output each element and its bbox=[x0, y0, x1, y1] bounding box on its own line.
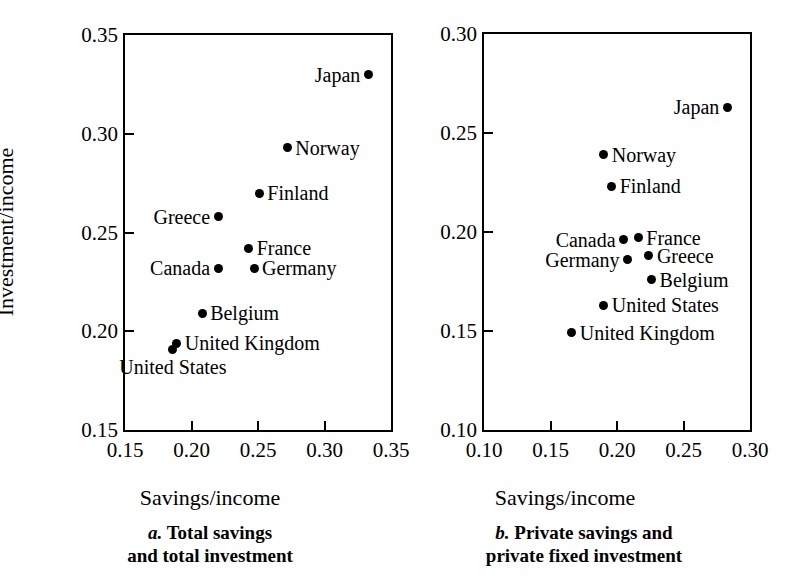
data-point bbox=[619, 235, 628, 244]
y-tick-mark bbox=[484, 132, 493, 134]
caption-b-letter: b. bbox=[495, 522, 509, 543]
x-tick-label: 0.30 bbox=[306, 440, 343, 461]
x-axis-title-b: Savings/income bbox=[376, 487, 754, 509]
data-point-label: Germany bbox=[262, 258, 336, 278]
data-point-label: Belgium bbox=[660, 270, 729, 290]
x-tick-label: 0.20 bbox=[173, 440, 210, 461]
data-point-label: Greece bbox=[657, 246, 714, 266]
data-point bbox=[623, 255, 632, 264]
data-point bbox=[250, 264, 259, 273]
data-point-label: Finland bbox=[267, 183, 328, 203]
x-axis-title-a: Savings/income bbox=[0, 487, 420, 509]
data-point-label: Belgium bbox=[210, 303, 279, 323]
y-tick-label: 0.30 bbox=[440, 24, 477, 45]
x-tick-mark bbox=[616, 421, 618, 430]
data-point-label: United Kingdom bbox=[185, 333, 320, 353]
data-point-label: Japan bbox=[315, 65, 361, 85]
y-tick-label: 0.20 bbox=[81, 321, 118, 342]
data-point-label: Greece bbox=[153, 207, 210, 227]
data-point bbox=[607, 182, 616, 191]
data-point-label: Germany bbox=[545, 250, 619, 270]
data-point bbox=[644, 251, 653, 260]
y-tick-label: 0.25 bbox=[440, 123, 477, 144]
data-point-label: Japan bbox=[674, 97, 720, 117]
caption-a-letter: a. bbox=[148, 522, 162, 543]
x-tick-mark bbox=[257, 421, 259, 430]
y-tick-label: 0.35 bbox=[81, 25, 118, 46]
x-tick-mark bbox=[191, 421, 193, 430]
data-point-label: United States bbox=[119, 357, 226, 377]
data-point bbox=[283, 143, 292, 152]
y-tick-mark bbox=[125, 330, 134, 332]
x-tick-label: 0.20 bbox=[599, 440, 636, 461]
y-tick-label: 0.25 bbox=[81, 222, 118, 243]
data-point-label: Finland bbox=[620, 176, 681, 196]
data-point-label: Canada bbox=[556, 230, 616, 250]
caption-a-line2: and total investment bbox=[0, 544, 420, 567]
y-axis-title-a: Investment/income bbox=[0, 148, 17, 317]
data-point-label: Norway bbox=[612, 145, 676, 165]
data-point bbox=[647, 275, 656, 284]
x-tick-label: 0.10 bbox=[466, 440, 503, 461]
data-point bbox=[723, 103, 732, 112]
data-point bbox=[244, 244, 253, 253]
data-point bbox=[255, 189, 264, 198]
y-tick-mark bbox=[125, 133, 134, 135]
caption-b: b. Private savings and private fixed inv… bbox=[374, 521, 794, 567]
data-point-label: United Kingdom bbox=[580, 323, 715, 343]
x-tick-label: 0.35 bbox=[373, 440, 410, 461]
x-tick-mark bbox=[683, 421, 685, 430]
x-tick-mark bbox=[550, 421, 552, 430]
caption-a: a. Total savings and total investment bbox=[0, 521, 420, 567]
data-point-label: Canada bbox=[150, 258, 210, 278]
caption-a-line1: Total savings bbox=[167, 522, 272, 543]
x-tick-label: 0.15 bbox=[532, 440, 569, 461]
data-point bbox=[214, 264, 223, 273]
data-point bbox=[634, 233, 643, 242]
data-point-label: Norway bbox=[295, 138, 359, 158]
plot-area-b: 0.100.150.200.250.300.100.150.200.250.30… bbox=[482, 32, 752, 432]
caption-b-line1: Private savings and bbox=[514, 522, 672, 543]
x-tick-label: 0.30 bbox=[732, 440, 769, 461]
y-tick-label: 0.30 bbox=[81, 123, 118, 144]
y-tick-mark bbox=[484, 231, 493, 233]
data-point bbox=[214, 212, 223, 221]
y-tick-label: 0.15 bbox=[440, 321, 477, 342]
x-tick-label: 0.15 bbox=[107, 440, 144, 461]
panel-a: Investment/income 0.150.200.250.300.350.… bbox=[0, 0, 420, 586]
scatter-figure: Investment/income 0.150.200.250.300.350.… bbox=[0, 0, 798, 586]
data-point-label: France bbox=[257, 238, 311, 258]
data-point-label: United States bbox=[612, 295, 719, 315]
data-point bbox=[599, 301, 608, 310]
x-tick-mark bbox=[324, 421, 326, 430]
y-tick-mark bbox=[484, 330, 493, 332]
data-point bbox=[567, 328, 576, 337]
y-tick-label: 0.20 bbox=[440, 222, 477, 243]
caption-b-line2: private fixed investment bbox=[374, 544, 794, 567]
x-tick-label: 0.25 bbox=[240, 440, 277, 461]
panel-b: 0.100.150.200.250.300.100.150.200.250.30… bbox=[420, 0, 798, 586]
data-point bbox=[168, 345, 177, 354]
data-point bbox=[599, 150, 608, 159]
y-tick-mark bbox=[125, 232, 134, 234]
data-point bbox=[364, 70, 373, 79]
x-tick-label: 0.25 bbox=[665, 440, 702, 461]
data-point bbox=[198, 309, 207, 318]
plot-area-a: 0.150.200.250.300.350.150.200.250.300.35… bbox=[123, 33, 393, 432]
